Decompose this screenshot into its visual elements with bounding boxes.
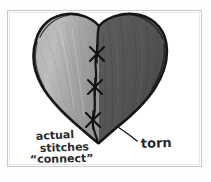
stitches-annotation-line3: “connect” <box>30 152 94 166</box>
heart-sketch: actual stitches “connect” torn <box>0 0 211 182</box>
torn-annotation: torn <box>141 135 172 151</box>
torn-annotation-text: torn <box>141 135 172 151</box>
sketch-canvas: actual stitches “connect” torn <box>0 0 211 182</box>
